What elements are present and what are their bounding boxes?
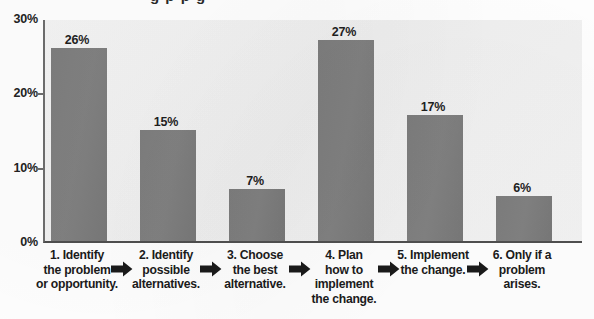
bar	[140, 130, 196, 242]
category-label-line: 6. Only if a	[475, 248, 569, 263]
bar-value-label: 6%	[487, 181, 557, 195]
bar-value-label: 17%	[398, 100, 468, 114]
bar-chart-screenshot: g p p g 0%10%20%30% 26%1. Identifythe pr…	[0, 0, 594, 319]
bar	[407, 115, 463, 241]
category-label-line: or opportunity.	[30, 277, 124, 292]
bar	[229, 189, 285, 241]
y-axis-tick-label: 0%	[0, 235, 38, 249]
plot-area	[43, 20, 582, 243]
bar	[51, 48, 107, 241]
bar	[496, 196, 552, 241]
cropped-title-sliver: g p p g	[0, 0, 594, 5]
y-axis-tick-label: 20%	[0, 86, 38, 100]
bar-value-label: 26%	[42, 33, 112, 47]
bar-value-label: 27%	[309, 25, 379, 39]
category-label-6: 6. Only if aproblemarises.	[475, 248, 569, 292]
bar-value-label: 7%	[220, 174, 290, 188]
category-label-line: alternative.	[208, 277, 302, 292]
bar	[318, 40, 374, 241]
category-label-line: arises.	[475, 277, 569, 292]
cropped-title-glyphs: g p p g	[150, 0, 206, 4]
bar-value-label: 15%	[131, 115, 201, 129]
category-label-line: problem	[475, 263, 569, 278]
y-axis-tick-label: 30%	[0, 12, 38, 26]
category-label-line: alternatives.	[119, 277, 213, 292]
category-label-line: implement	[297, 277, 391, 292]
category-label-4: 4. Planhow toimplementthe change.	[297, 248, 391, 306]
y-axis-tick-label: 10%	[0, 161, 38, 175]
category-label-line: the change.	[297, 292, 391, 307]
